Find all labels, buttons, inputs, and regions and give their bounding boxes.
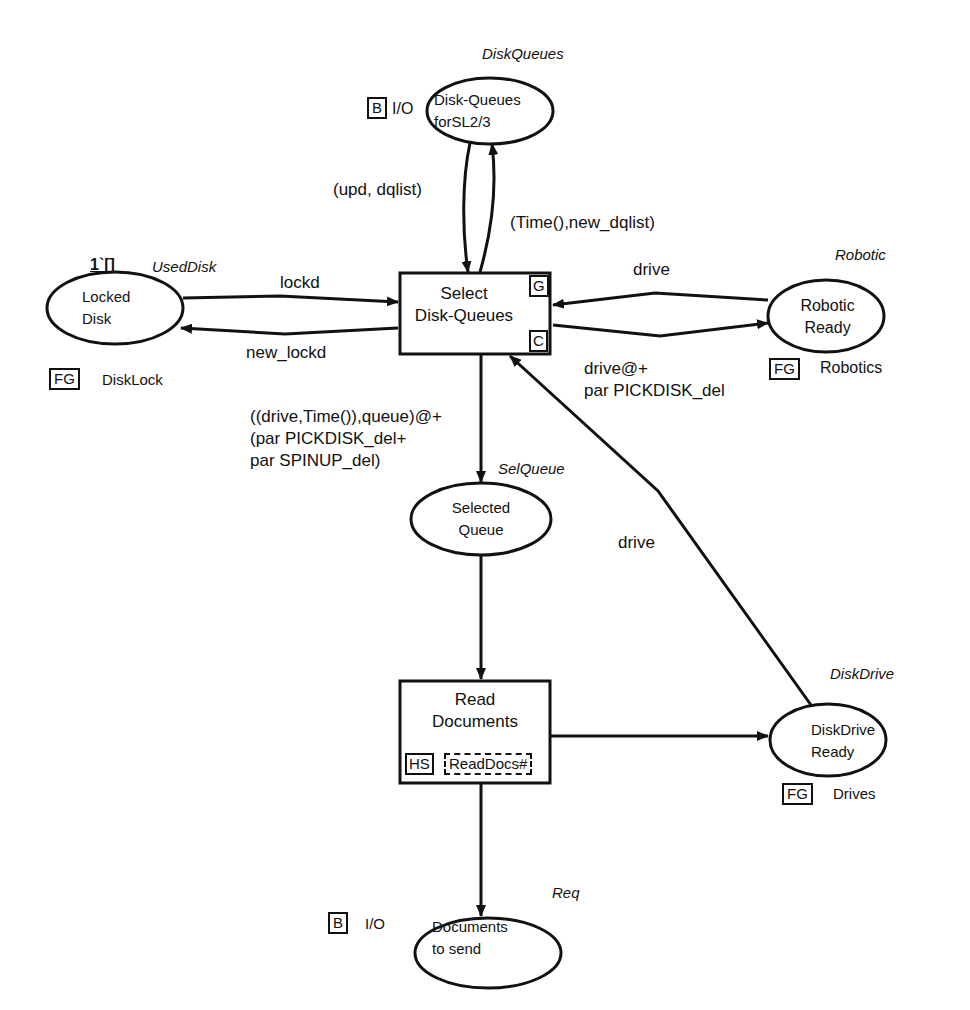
arc-label-drive-time-queue: ((drive,Time()),queue)@+ (250, 406, 442, 427)
arc-label-spinup-del: par SPINUP_del) (250, 450, 380, 471)
arc-robotic-to-select (553, 293, 768, 305)
place-label-disk-queues: Disk-Queues forSL2/3 (430, 89, 554, 133)
place-line: Disk-Queues (434, 89, 554, 111)
place-line: Disk (82, 308, 182, 330)
arc-label-lockd: lockd (280, 272, 320, 293)
port-tag-b-top: B (367, 97, 387, 119)
arc-label-upd-dqlist: (upd, dqlist) (333, 179, 422, 200)
arc-select-to-dq (480, 144, 494, 272)
place-line: Robotic (770, 295, 885, 317)
arc-dq-to-select (464, 143, 470, 272)
place-line: DiskDrive (811, 719, 921, 741)
place-line: Queue (411, 519, 551, 541)
arc-label-pickdisk-del: (par PICKDISK_del+ (250, 428, 406, 449)
place-label-locked-disk: Locked Disk (62, 286, 182, 330)
transition-line: Disk-Queues (400, 305, 528, 327)
initial-marking: 1`[] (90, 254, 115, 275)
place-line: Ready (811, 741, 921, 763)
fusion-label-disklock: DiskLock (102, 369, 163, 390)
arc-label-pickdisk: par PICKDISK_del (584, 380, 725, 401)
place-line: Locked (82, 286, 182, 308)
arc-label-drive-at: drive@+ (584, 358, 648, 379)
arc-label-drive-diskdrive: drive (618, 532, 655, 553)
arc-label-time-new-dqlist: (Time(),new_dqlist) (510, 212, 655, 233)
arc-select-to-locked (181, 328, 398, 334)
colorset-label-robotic: Robotic (835, 244, 886, 265)
fusion-label-robotics: Robotics (820, 357, 882, 378)
transition-line: Read (400, 689, 550, 711)
fusion-tag-drives: FG (782, 783, 813, 805)
place-label-diskdrive-ready: DiskDrive Ready (775, 719, 921, 763)
colorset-label-useddisk: UsedDisk (152, 256, 216, 277)
transition-label-select: Select Disk-Queues (400, 283, 528, 327)
colorset-label-diskqueues: DiskQueues (482, 43, 564, 64)
fusion-tag-disklock: FG (49, 368, 80, 390)
arc-label-drive-robotic-in: drive (633, 259, 670, 280)
subpage-tag-readdocs[interactable]: ReadDocs# (444, 753, 532, 775)
transition-label-read-documents: Read Documents (400, 689, 550, 733)
colorset-label-selqueue: SelQueue (498, 458, 565, 479)
place-line: Ready (770, 317, 885, 339)
port-label-io-bottom: I/O (365, 913, 385, 934)
arc-label-new-lockd: new_lockd (246, 342, 326, 363)
arc-diskdrive-to-select (510, 356, 811, 705)
port-label-io-top: I/O (392, 98, 413, 119)
place-label-robotic-ready: Robotic Ready (770, 295, 885, 339)
code-tag[interactable]: C (529, 330, 548, 352)
place-label-documents-to-send: Documents to send (432, 916, 552, 960)
port-tag-b-bottom: B (328, 912, 348, 934)
fusion-tag-robotics: FG (769, 358, 800, 380)
place-line: Documents (432, 916, 552, 938)
guard-tag[interactable]: G (529, 275, 549, 297)
place-label-selected-queue: Selected Queue (411, 497, 551, 541)
arc-select-to-robotic (553, 323, 768, 336)
place-line: forSL2/3 (434, 111, 554, 133)
place-line: to send (432, 938, 552, 960)
hs-tag[interactable]: HS (405, 753, 434, 775)
fusion-label-drives: Drives (833, 783, 876, 804)
colorset-label-diskdrive: DiskDrive (830, 663, 894, 684)
place-line: Selected (411, 497, 551, 519)
colorset-label-req: Req (552, 882, 580, 903)
transition-line: Select (400, 283, 528, 305)
transition-line: Documents (400, 711, 550, 733)
arc-locked-to-select (183, 296, 398, 302)
